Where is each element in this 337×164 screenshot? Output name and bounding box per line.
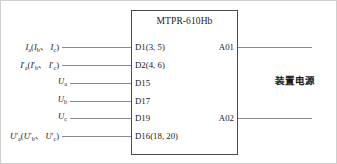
terminal-label-d17: D17	[135, 96, 150, 106]
input-wire-2	[62, 65, 131, 66]
output-wire-a02	[238, 118, 312, 119]
diagram-canvas: MTPR-610Hb Ia(Ib、 Ic) I′a(I′b、 I′c) Ua U…	[0, 0, 337, 164]
input-wire-3	[70, 83, 131, 84]
input-wire-1	[62, 47, 131, 48]
signal-text-ia-prime: I′a(I′b、 I′c)	[20, 60, 59, 70]
output-wire-a01	[238, 47, 312, 48]
signal-text-uc: Uc	[58, 111, 67, 121]
signal-text-ua-prime: U′a(U′b、 U′c)	[10, 131, 59, 141]
input-wire-5	[70, 118, 131, 119]
power-supply-label: 装置电源	[258, 73, 332, 87]
signal-label-ia-prime: I′a(I′b、 I′c)	[2, 58, 59, 70]
terminal-label-d2: D2(4, 6)	[135, 60, 165, 70]
terminal-label-d19: D19	[135, 113, 150, 123]
signal-text-ub: Ub	[58, 94, 67, 104]
signal-text-ia: Ia(Ib、 Ic)	[25, 42, 59, 52]
signal-label-ua-prime: U′a(U′b、 U′c)	[0, 129, 59, 141]
signal-label-uc: Uc	[2, 111, 67, 121]
signal-label-ua: Ua	[2, 76, 67, 86]
terminal-label-d16: D16(18, 20)	[135, 131, 178, 141]
input-wire-6	[62, 136, 131, 137]
terminal-label-a01: A01	[176, 42, 234, 52]
input-wire-4	[70, 101, 131, 102]
signal-label-ia: Ia(Ib、 Ic)	[2, 40, 59, 52]
terminal-label-d1: D1(3, 5)	[135, 42, 165, 52]
signal-text-ua: Ua	[58, 76, 67, 86]
device-title: MTPR-610Hb	[131, 16, 238, 26]
signal-label-ub: Ub	[2, 94, 67, 104]
terminal-label-a02: A02	[176, 113, 234, 123]
terminal-label-d15: D15	[135, 78, 150, 88]
